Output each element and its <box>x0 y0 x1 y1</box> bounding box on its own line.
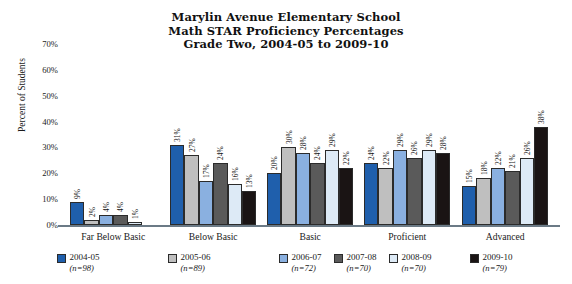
bar-value-label: 30% <box>284 131 293 145</box>
bar-value-label: 24% <box>367 146 376 160</box>
bar-value-label: 31% <box>173 128 182 142</box>
legend-swatch-icon <box>279 254 288 263</box>
bar-value-label: 22% <box>381 152 390 166</box>
legend-item[interactable]: 2009-10(n=79) <box>470 252 513 273</box>
category-label: Basic <box>300 231 321 242</box>
bar-group: 15%18%22%21%26%38% <box>462 44 548 225</box>
bar-value-label: 27% <box>187 139 196 153</box>
bar[interactable] <box>422 150 436 225</box>
bar-wrapper: 31% <box>170 44 184 225</box>
bar-value-label: 24% <box>313 146 322 160</box>
y-tick-20pct: 20% <box>42 168 58 178</box>
bar[interactable] <box>339 168 353 225</box>
bar-value-label: 13% <box>245 175 254 189</box>
chart-legend: 2004-05(n=98)2005-06(n=89)2006-07(n=72)2… <box>0 252 572 282</box>
legend-sample-size: (n=72) <box>292 263 322 274</box>
bar-value-label: 28% <box>298 136 307 150</box>
y-tick-30pct: 30% <box>42 142 58 152</box>
bar[interactable] <box>310 163 324 225</box>
bar[interactable] <box>84 220 98 225</box>
bar[interactable] <box>407 158 421 225</box>
bar[interactable] <box>281 147 295 225</box>
bar[interactable] <box>213 163 227 225</box>
legend-sample-size: (n=79) <box>483 263 513 274</box>
bar-wrapper: 4% <box>99 44 113 225</box>
legend-item[interactable]: 2004-05(n=98) <box>57 252 100 273</box>
bar-value-label: 15% <box>465 170 474 184</box>
bar[interactable] <box>128 222 142 225</box>
bar-value-label: 9% <box>73 189 82 199</box>
bar-wrapper: 1% <box>128 44 142 225</box>
bar-group: 9%2%4%4%1% <box>70 44 156 225</box>
legend-item[interactable]: 2007-08(n=70) <box>334 252 377 273</box>
bar-value-label: 4% <box>101 202 110 212</box>
bar[interactable] <box>462 186 476 225</box>
bar-value-label: 16% <box>230 167 239 181</box>
bar[interactable] <box>242 191 256 225</box>
bar[interactable] <box>70 202 84 225</box>
category-label: Advanced <box>486 231 525 242</box>
bar[interactable] <box>228 184 242 225</box>
bar-value-label: 22% <box>493 152 502 166</box>
bar[interactable] <box>534 127 548 225</box>
bar-wrapper: 4% <box>113 44 127 225</box>
bar[interactable] <box>505 171 519 225</box>
legend-label: 2007-08 <box>347 252 377 263</box>
bar-value-label: 4% <box>116 202 125 212</box>
legend-item[interactable]: 2006-07(n=72) <box>279 252 322 273</box>
y-axis-tick-labels: 0%10%20%30%40%50%60%70% <box>24 44 58 225</box>
bar-wrapper: 38% <box>534 44 548 225</box>
legend-swatch-icon <box>57 254 66 263</box>
bar[interactable] <box>436 153 450 225</box>
legend-sample-size: (n=70) <box>347 263 377 274</box>
bar[interactable] <box>325 150 339 225</box>
y-tick-70pct: 70% <box>42 39 58 49</box>
bar[interactable] <box>267 173 281 225</box>
bar-wrapper: 13% <box>242 44 256 225</box>
legend-item[interactable]: 2005-06(n=89) <box>168 252 211 273</box>
bar[interactable] <box>520 158 534 225</box>
plot-area: 9%2%4%4%1%31%27%17%24%16%13%20%30%28%24%… <box>62 44 559 225</box>
bar-value-label: 22% <box>342 152 351 166</box>
bar[interactable] <box>199 181 213 225</box>
y-tick-40pct: 40% <box>42 117 58 127</box>
bar-wrapper: 2% <box>84 44 98 225</box>
bar[interactable] <box>491 168 505 225</box>
bar-value-label: 20% <box>270 157 279 171</box>
bar-wrapper <box>142 44 156 225</box>
legend-swatch-icon <box>168 254 177 263</box>
bar[interactable] <box>113 215 127 225</box>
bar[interactable] <box>170 145 184 225</box>
bar[interactable] <box>184 155 198 225</box>
bar-wrapper: 21% <box>505 44 519 225</box>
bar-wrapper: 9% <box>70 44 84 225</box>
bar-wrapper: 15% <box>462 44 476 225</box>
bar-wrapper: 24% <box>310 44 324 225</box>
bar-wrapper: 28% <box>296 44 310 225</box>
bar[interactable] <box>378 168 392 225</box>
bar-group: 20%30%28%24%29%22% <box>267 44 353 225</box>
bar-wrapper: 20% <box>267 44 281 225</box>
y-tick-10pct: 10% <box>42 194 58 204</box>
bar-value-label: 2% <box>87 207 96 217</box>
bar-wrapper: 26% <box>520 44 534 225</box>
bar-value-label: 29% <box>395 133 404 147</box>
legend-label: 2005-06 <box>181 252 211 263</box>
legend-swatch-icon <box>334 254 343 263</box>
legend-item[interactable]: 2008-09(n=70) <box>389 252 432 273</box>
bar-wrapper: 24% <box>364 44 378 225</box>
bar[interactable] <box>296 153 310 225</box>
bar[interactable] <box>99 215 113 225</box>
bar-value-label: 24% <box>216 146 225 160</box>
bar[interactable] <box>364 163 378 225</box>
legend-label: 2004-05 <box>70 252 100 263</box>
bar-value-label: 26% <box>410 141 419 155</box>
bar-group: 31%27%17%24%16%13% <box>170 44 256 225</box>
bar-value-label: 18% <box>479 162 488 176</box>
bar-value-label: 28% <box>439 136 448 150</box>
bar[interactable] <box>476 178 490 225</box>
bar-wrapper: 22% <box>491 44 505 225</box>
legend-label: 2009-10 <box>483 252 513 263</box>
bar[interactable] <box>393 150 407 225</box>
legend-label: 2008-09 <box>402 252 432 263</box>
